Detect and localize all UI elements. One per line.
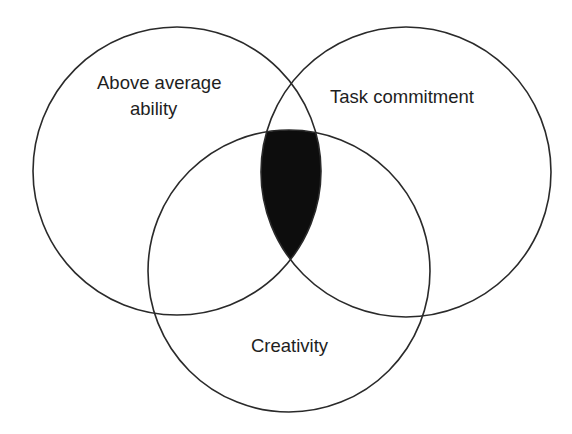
label-task-commitment: Task commitment: [330, 86, 474, 107]
label-creativity: Creativity: [251, 335, 329, 356]
label-above-average: Above average: [97, 72, 221, 93]
venn-diagram: Above average ability Task commitment Cr…: [0, 0, 572, 434]
triple-intersection-group: [148, 130, 430, 412]
label-ability: ability: [130, 98, 178, 119]
triple-intersection-region: [148, 130, 430, 412]
